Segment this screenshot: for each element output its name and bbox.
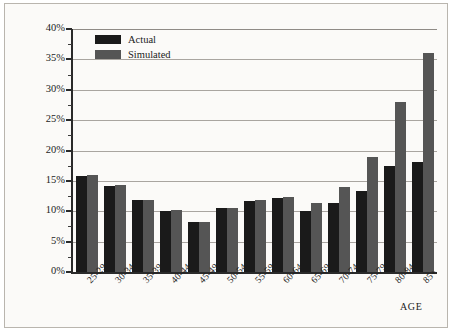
y-tick xyxy=(66,89,72,91)
bar-simulated xyxy=(171,210,182,272)
y-tick xyxy=(66,28,72,30)
bar-actual xyxy=(188,222,199,272)
y-tick xyxy=(66,58,72,60)
y-tick xyxy=(66,241,72,243)
bar-group xyxy=(356,29,378,272)
bar-actual xyxy=(412,162,423,272)
y-tick-label: 5% xyxy=(25,235,65,246)
bar-simulated xyxy=(115,185,126,272)
y-tick-minor xyxy=(68,226,72,227)
y-tick-minor xyxy=(68,44,72,45)
bar-simulated xyxy=(283,197,294,272)
y-tick-label: 40% xyxy=(25,22,65,33)
y-tick xyxy=(66,210,72,212)
x-axis-title: AGE xyxy=(400,301,422,312)
bar-actual xyxy=(272,198,283,272)
y-tick-minor xyxy=(68,166,72,167)
bar-simulated xyxy=(255,200,266,272)
bar-actual xyxy=(104,186,115,272)
bar-actual xyxy=(160,211,171,272)
y-tick xyxy=(66,180,72,182)
legend-label-simulated: Simulated xyxy=(128,49,171,60)
bar-simulated xyxy=(339,187,350,272)
bar-actual xyxy=(76,176,87,272)
bar-actual xyxy=(132,200,143,272)
bar-actual xyxy=(356,191,367,272)
bar-simulated xyxy=(367,157,378,272)
bar-group xyxy=(412,29,434,272)
y-tick-minor xyxy=(68,135,72,136)
y-tick-minor xyxy=(68,257,72,258)
y-tick-label: 35% xyxy=(25,52,65,63)
bar-actual xyxy=(300,211,311,272)
y-tick-label: 15% xyxy=(25,174,65,185)
y-tick-label: 30% xyxy=(25,83,65,94)
bar-simulated xyxy=(87,175,98,272)
legend-item-actual: Actual xyxy=(95,33,171,46)
y-tick-label: 25% xyxy=(25,113,65,124)
chart-legend: Actual Simulated xyxy=(91,30,175,66)
bar-group xyxy=(188,29,210,272)
legend-label-actual: Actual xyxy=(128,34,156,45)
y-tick-label: 20% xyxy=(25,144,65,155)
simulated-swatch-icon xyxy=(95,50,121,59)
y-tick-minor xyxy=(68,196,72,197)
bar-group xyxy=(328,29,350,272)
bar-group xyxy=(244,29,266,272)
y-tick xyxy=(66,119,72,121)
bar-simulated xyxy=(395,102,406,272)
y-tick-label: 0% xyxy=(25,265,65,276)
y-tick-label: 10% xyxy=(25,204,65,215)
bar-simulated xyxy=(227,208,238,272)
bar-simulated xyxy=(423,53,434,272)
bar-simulated xyxy=(199,222,210,272)
chart-frame: 0%5%10%15%20%25%30%35%40% 25-2930-3435-3… xyxy=(4,3,448,328)
actual-swatch-icon xyxy=(95,35,121,44)
bar-actual xyxy=(384,166,395,272)
bar-simulated xyxy=(143,200,154,272)
bar-group xyxy=(216,29,238,272)
bar-group xyxy=(272,29,294,272)
bar-actual xyxy=(244,201,255,272)
bar-group xyxy=(300,29,322,272)
y-tick xyxy=(66,271,72,273)
legend-item-simulated: Simulated xyxy=(95,48,171,61)
bar-actual xyxy=(328,203,339,272)
bar-simulated xyxy=(311,203,322,272)
bar-group xyxy=(384,29,406,272)
y-tick xyxy=(66,150,72,152)
y-tick-minor xyxy=(68,105,72,106)
y-tick-minor xyxy=(68,75,72,76)
bar-actual xyxy=(216,208,227,272)
